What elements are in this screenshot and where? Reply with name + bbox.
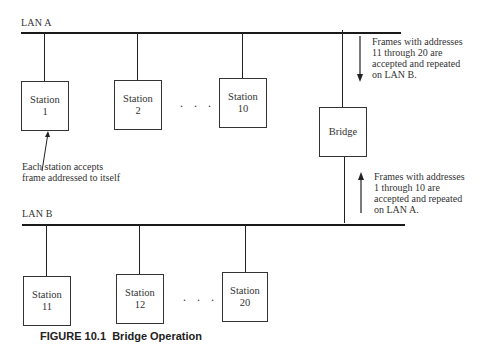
note-b-to-a-line-4: on LAN A.: [374, 204, 465, 215]
note-station-accepts: Each station accepts frame addressed to …: [22, 161, 120, 183]
note-a-to-b-line-3: accepted and repeated: [372, 58, 463, 69]
figure-caption: FIGURE 10.1 Bridge Operation: [40, 330, 202, 342]
note-b-to-a-line-2: 1 through 10 are: [374, 182, 465, 193]
lan-b-drop-11: [46, 225, 47, 277]
figure-title: Bridge Operation: [112, 330, 202, 342]
note-station-accepts-line-1: Each station accepts: [22, 161, 120, 172]
lan-b-drop-20: [245, 225, 246, 273]
note-b-to-a-line-3: accepted and repeated: [374, 193, 465, 204]
station-20: Station 20: [222, 272, 268, 322]
station-11-number: 11: [42, 301, 52, 313]
note-a-to-b-line-2: 11 through 20 are: [372, 47, 463, 58]
note-b-to-a: Frames with addresses 1 through 10 are a…: [374, 171, 465, 215]
station-12: Station 12: [116, 274, 164, 324]
lan-b-label: LAN B: [22, 208, 53, 219]
note-a-to-b-line-1: Frames with addresses: [372, 36, 463, 47]
station-20-number: 20: [240, 297, 251, 309]
figure-number: FIGURE 10.1: [40, 330, 106, 342]
note-a-to-b-line-4: on LAN B.: [372, 69, 463, 80]
lan-b-bus: [22, 224, 405, 226]
station-11: Station 11: [23, 276, 71, 326]
station-11-name: Station: [32, 289, 62, 301]
note-b-to-a-line-1: Frames with addresses: [374, 171, 465, 182]
station-12-name: Station: [125, 287, 155, 299]
note-station-accepts-line-2: frame addressed to itself: [22, 172, 120, 183]
lan-b-drop-12: [139, 225, 140, 275]
note-a-to-b: Frames with addresses 11 through 20 are …: [372, 36, 463, 80]
station-20-name: Station: [230, 285, 260, 297]
lan-b-ellipsis: . . .: [183, 290, 218, 305]
station-12-number: 12: [135, 299, 146, 311]
